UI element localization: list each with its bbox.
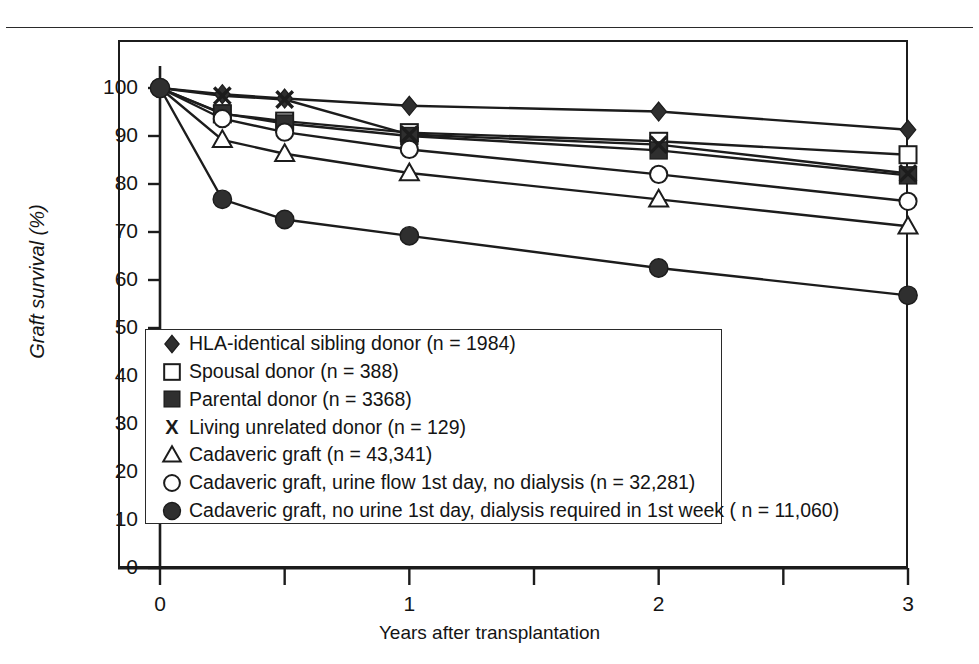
filled-diamond-icon-icon (155, 331, 189, 357)
legend-item-label: Cadaveric graft, no urine 1st day, dialy… (189, 501, 839, 521)
x-tick-label: 1 (389, 592, 429, 616)
filled-square-icon-icon (155, 386, 189, 412)
data-point-open-circle (401, 141, 418, 158)
legend-item: Cadaveric graft (n = 43,341) (146, 441, 721, 469)
legend-item-label: Living unrelated donor (n = 129) (189, 418, 466, 438)
y-tick-label: 20 (78, 459, 138, 483)
y-tick-label: 40 (78, 363, 138, 387)
data-point-filled-circle (150, 78, 169, 97)
y-tick-label: 0 (78, 555, 138, 579)
data-point-filled-circle (213, 190, 231, 208)
y-tick-label: 50 (78, 315, 138, 339)
legend-item-label: Parental donor (n = 3368) (189, 390, 412, 410)
open-circle-icon-icon (155, 470, 189, 496)
y-tick-label: 10 (78, 507, 138, 531)
data-point-filled-diamond (900, 120, 916, 139)
data-point-filled-circle (400, 227, 418, 245)
y-tick-label: 90 (78, 123, 138, 147)
y-tick-label: 70 (78, 219, 138, 243)
y-tick-label: 30 (78, 411, 138, 435)
legend-item: Cadaveric graft, urine flow 1st day, no … (146, 469, 721, 497)
data-point-open-triangle (163, 446, 180, 461)
figure-container: 0102030405060708090100 0123 Graft surviv… (0, 0, 979, 664)
data-point-open-circle (164, 475, 180, 491)
x-marker-icon-icon: X (155, 414, 189, 440)
legend-item: Spousal donor (n = 388) (146, 358, 721, 386)
data-point-open-circle (650, 166, 667, 183)
x-tick-label: 2 (639, 592, 679, 616)
y-tick-label: 60 (78, 267, 138, 291)
series-lines (160, 88, 908, 295)
x-axis-title: Years after transplantation (0, 622, 979, 644)
y-axis-title: Graft survival (%) (26, 167, 49, 397)
series-line-5 (160, 88, 908, 201)
data-point-filled-circle (275, 210, 293, 228)
data-point-open-circle (899, 193, 916, 210)
x-tick-label: 0 (140, 592, 180, 616)
data-point-filled-circle (899, 286, 917, 304)
data-point-open-square (164, 364, 180, 380)
x-tick-label: 3 (888, 592, 928, 616)
data-point-filled-circle (164, 502, 181, 519)
legend-item-label: Cadaveric graft (n = 43,341) (189, 445, 432, 465)
y-tick-label: 80 (78, 171, 138, 195)
data-point-filled-diamond (165, 335, 179, 352)
data-point-filled-square (164, 392, 180, 408)
legend-item-label: Spousal donor (n = 388) (189, 362, 399, 382)
data-point-open-circle (276, 124, 293, 141)
data-point-filled-circle (649, 259, 667, 277)
y-tick-label: 100 (78, 75, 138, 99)
series-markers (150, 78, 917, 304)
data-point-open-square (900, 146, 917, 163)
legend-item-label: HLA-identical sibling donor (n = 1984) (189, 334, 516, 354)
data-point-filled-diamond (402, 96, 418, 115)
open-triangle-icon-icon (155, 442, 189, 468)
legend: HLA-identical sibling donor (n = 1984)Sp… (145, 329, 722, 524)
legend-item: HLA-identical sibling donor (n = 1984) (146, 330, 721, 358)
legend-item: Parental donor (n = 3368) (146, 386, 721, 414)
legend-item: Cadaveric graft, no urine 1st day, dialy… (146, 497, 721, 525)
legend-item-label: Cadaveric graft, urine flow 1st day, no … (189, 473, 695, 493)
legend-item: XLiving unrelated donor (n = 129) (146, 413, 721, 441)
open-square-icon-icon (155, 359, 189, 385)
filled-circle-icon-icon (155, 498, 189, 524)
series-line-3 (160, 88, 908, 173)
data-point-open-circle (214, 110, 231, 127)
series-line-0 (160, 88, 908, 130)
data-point-filled-diamond (651, 102, 667, 121)
